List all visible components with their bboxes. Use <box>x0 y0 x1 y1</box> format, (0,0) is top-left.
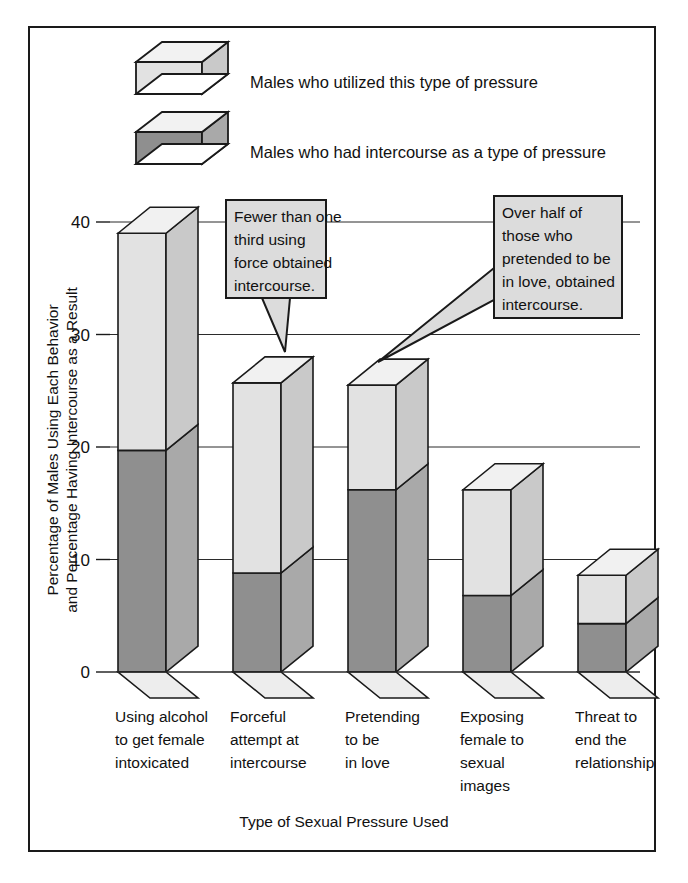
x-label-5-line-0: Threat to <box>575 708 637 725</box>
x-label-3-line-2: in love <box>345 754 390 771</box>
x-label-2-line-1: attempt at <box>230 731 300 748</box>
bar-4-intercourse-front[interactable] <box>463 596 511 673</box>
x-label-5-line-2: relationship <box>575 754 654 771</box>
bar-2-intercourse-front[interactable] <box>233 573 281 672</box>
bar-3-intercourse-side[interactable] <box>396 464 428 672</box>
x-label-2-line-2: intercourse <box>230 754 307 771</box>
bar-4-utilized-front[interactable] <box>463 490 511 596</box>
legend: Males who utilized this type of pressure… <box>136 42 606 164</box>
x-label-4-line-2: sexual <box>460 754 505 771</box>
callout-force-line-3: intercourse. <box>234 277 315 294</box>
y-axis-title-line-1: and Percentage Having Intercourse as a R… <box>63 286 80 612</box>
x-category-labels: Using alcoholto get femaleintoxicatedFor… <box>115 708 654 794</box>
x-label-1-line-0: Using alcohol <box>115 708 208 725</box>
x-label-4-line-0: Exposing <box>460 708 524 725</box>
chart-figure: 010203040Percentage of Males Using Each … <box>0 0 688 883</box>
bar-5-utilized-front[interactable] <box>578 575 626 623</box>
bar-1-base-face <box>118 672 198 698</box>
bar-2-utilized-front[interactable] <box>233 383 281 573</box>
bar-1[interactable] <box>118 207 198 698</box>
x-axis-title: Type of Sexual Pressure Used <box>239 813 448 830</box>
bar-4-base-face <box>463 672 543 698</box>
callout-pretend-tail <box>378 268 494 362</box>
bar-5[interactable] <box>578 549 658 698</box>
bar-5-base-face <box>578 672 658 698</box>
x-label-1-line-2: intoxicated <box>115 754 189 771</box>
callout-pretend-line-4: intercourse. <box>502 296 583 313</box>
bar-1-utilized-front[interactable] <box>118 233 166 450</box>
legend-label-1: Males who utilized this type of pressure <box>250 73 538 91</box>
bar-5-intercourse-front[interactable] <box>578 624 626 672</box>
callout-pretend-line-3: in love, obtained <box>502 273 615 290</box>
x-label-4-line-3: images <box>460 777 510 794</box>
x-label-2-line-0: Forceful <box>230 708 286 725</box>
bar-2[interactable] <box>233 357 313 698</box>
callout-pretend-line-2: pretended to be <box>502 250 611 267</box>
y-axis-title-line-0: Percentage of Males Using Each Behavior <box>44 304 61 595</box>
ytick-label-40: 40 <box>71 213 90 232</box>
ytick-label-0: 0 <box>81 663 90 682</box>
bar-2-base-face <box>233 672 313 698</box>
x-label-1-line-1: to get female <box>115 731 205 748</box>
bar-4[interactable] <box>463 464 543 698</box>
legend-item-1[interactable]: Males who utilized this type of pressure <box>136 42 538 94</box>
chart-svg: 010203040Percentage of Males Using Each … <box>0 0 688 883</box>
callout-force-line-2: force obtained <box>234 254 332 271</box>
y-axis-title: Percentage of Males Using Each Behaviora… <box>44 286 80 612</box>
bar-3-base-face <box>348 672 428 698</box>
bar-1-intercourse-front[interactable] <box>118 450 166 672</box>
bar-1-intercourse-side[interactable] <box>166 424 198 672</box>
callout-force[interactable]: Fewer than onethird usingforce obtainedi… <box>226 200 342 352</box>
callout-force-line-1: third using <box>234 231 306 248</box>
callout-pretend[interactable]: Over half ofthose whopretended to bein l… <box>378 196 622 362</box>
x-label-3-line-0: Pretending <box>345 708 420 725</box>
legend-label-2: Males who had intercourse as a type of p… <box>250 143 606 161</box>
x-label-4-line-1: female to <box>460 731 524 748</box>
bar-3-intercourse-front[interactable] <box>348 490 396 672</box>
bar-3[interactable] <box>348 359 428 698</box>
callout-pretend-line-1: those who <box>502 227 573 244</box>
bar-3-utilized-front[interactable] <box>348 385 396 490</box>
x-label-3-line-1: to be <box>345 731 379 748</box>
callouts-group: Fewer than onethird usingforce obtainedi… <box>226 196 622 362</box>
legend-item-2[interactable]: Males who had intercourse as a type of p… <box>136 112 606 164</box>
callout-pretend-line-0: Over half of <box>502 204 583 221</box>
bar-2-utilized-side[interactable] <box>281 357 313 573</box>
callout-force-tail <box>262 298 290 352</box>
bar-1-utilized-side[interactable] <box>166 207 198 450</box>
callout-force-line-0: Fewer than one <box>234 208 342 225</box>
x-label-5-line-1: end the <box>575 731 627 748</box>
